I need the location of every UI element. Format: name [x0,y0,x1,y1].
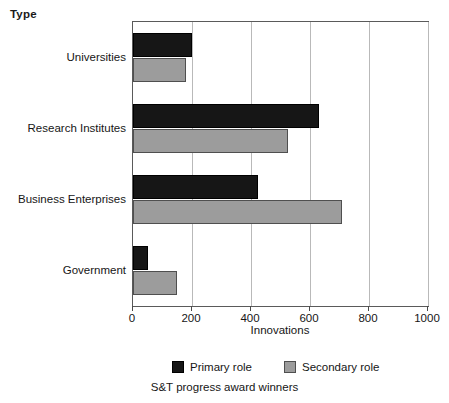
x-tick-mark-800 [368,306,369,311]
gridline-400 [251,22,252,306]
bar [133,33,192,57]
legend-label: Primary role [190,361,252,373]
bar [133,175,258,199]
category-label-government: Government [0,264,126,276]
figure-caption: S&T progress award winners [0,381,449,393]
category-label-research-institutes: Research Institutes [0,122,126,134]
category-label-business-enterprises: Business Enterprises [0,193,126,205]
x-tick-label-600: 600 [289,312,329,324]
x-tick-mark-600 [309,306,310,311]
legend: Primary roleSecondary role [0,357,449,375]
gridline-200 [192,22,193,306]
bar [133,246,148,270]
x-tick-label-1000: 1000 [407,312,447,324]
legend-label: Secondary role [302,361,379,373]
bar [133,129,288,153]
gridline-800 [369,22,370,306]
x-tick-mark-0 [132,306,133,311]
cropped-text-remnant [0,0,449,6]
category-label-universities: Universities [0,51,126,63]
x-tick-mark-1000 [427,306,428,311]
bar [133,200,342,224]
gridline-1000 [428,22,429,306]
plot-inner [133,22,428,306]
x-tick-mark-400 [250,306,251,311]
legend-swatch-primary [172,361,184,373]
legend-entry-primary: Primary role [172,357,252,373]
x-tick-label-800: 800 [348,312,388,324]
x-tick-label-200: 200 [171,312,211,324]
y-axis-group-title: Type [10,8,37,20]
bar [133,58,186,82]
bar [133,104,319,128]
x-tick-label-400: 400 [230,312,270,324]
x-axis-title: Innovations [132,324,428,336]
plot-area [132,21,429,307]
x-tick-label-0: 0 [112,312,152,324]
bar [133,271,177,295]
y-axis-category-labels: UniversitiesResearch InstitutesBusiness … [0,21,126,305]
legend-swatch-secondary [284,361,296,373]
legend-entry-secondary: Secondary role [284,357,379,373]
x-tick-mark-200 [191,306,192,311]
gridline-600 [310,22,311,306]
